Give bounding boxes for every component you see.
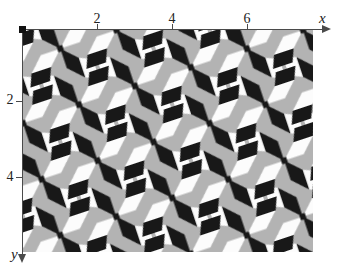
figure-canvas: 2 4 6 2 4 x y	[0, 0, 340, 276]
x-axis-label: x	[319, 11, 326, 26]
tessellation-fill	[23, 30, 313, 252]
origin-marker	[19, 26, 26, 33]
y-tick-2	[16, 101, 22, 102]
y-tick-label-2: 2	[5, 93, 15, 107]
y-axis-line	[22, 30, 23, 256]
x-tick-label-6: 6	[244, 12, 251, 26]
y-axis-arrow-icon	[18, 254, 26, 263]
x-tick-label-4: 4	[169, 12, 176, 26]
y-axis-label: y	[11, 247, 18, 262]
y-tick-label-4: 4	[5, 170, 15, 184]
x-axis-line	[23, 29, 324, 30]
x-axis-arrow-icon	[322, 25, 331, 33]
y-tick-4	[16, 177, 22, 178]
tessellation-image	[23, 30, 313, 252]
x-tick-label-2: 2	[94, 12, 101, 26]
